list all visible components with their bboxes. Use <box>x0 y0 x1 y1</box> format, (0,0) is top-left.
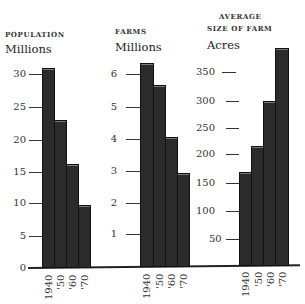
y-tick-label: 30 <box>0 68 26 79</box>
x-label: '70 <box>79 275 90 290</box>
y-tick-label: 200 <box>196 148 224 159</box>
x-label: '60 <box>265 272 276 287</box>
y-tick-label: 2 <box>95 197 117 208</box>
y-tick-mark <box>29 140 42 141</box>
y-tick-label: 100 <box>196 205 224 216</box>
y-tick-mark <box>126 171 140 172</box>
y-tick-label: 250 <box>196 122 224 133</box>
y-tick-label: 300 <box>196 95 224 106</box>
farms-bar-1970 <box>177 173 190 267</box>
size-bar-1970 <box>275 48 289 266</box>
y-tick-label: 15 <box>0 166 26 177</box>
y-tick-mark <box>126 139 140 140</box>
y-tick-mark <box>126 74 140 75</box>
x-label: 1940 <box>43 275 54 300</box>
y-tick-mark <box>29 203 42 204</box>
population-bar-1970 <box>78 205 91 268</box>
y-tick-label: 20 <box>0 134 26 145</box>
size-title-line2: SIZE OF FARM <box>207 24 272 33</box>
y-tick-label: 3 <box>95 165 117 176</box>
x-label: '60 <box>67 275 78 290</box>
y-tick-mark <box>126 107 140 108</box>
y-tick-mark <box>226 128 239 129</box>
x-label: '70 <box>178 274 189 289</box>
x-label: 1940 <box>141 274 152 299</box>
y-tick-label: 350 <box>196 66 224 77</box>
x-label: '60 <box>166 274 177 289</box>
y-tick-mark <box>29 236 42 237</box>
size-unit: Acres <box>207 38 240 52</box>
y-tick-mark <box>126 203 140 204</box>
y-tick-label: 4 <box>95 133 117 144</box>
y-tick-mark <box>226 211 239 212</box>
y-tick-label: 150 <box>196 177 224 188</box>
y-tick-mark <box>126 234 140 235</box>
y-tick-mark <box>226 154 239 155</box>
y-tick-mark <box>226 239 239 240</box>
farms-title: FARMS <box>115 27 147 36</box>
population-title: POPULATION <box>5 30 65 39</box>
y-tick-label: 5 <box>0 230 26 241</box>
x-label: '70 <box>277 272 288 287</box>
x-label: '50 <box>253 272 264 287</box>
y-tick-mark <box>29 74 42 75</box>
y-tick-label: 0 <box>0 262 26 273</box>
x-label: 1940 <box>240 272 251 297</box>
y-tick-label: 6 <box>95 68 117 79</box>
farms-bar-1940 <box>140 63 154 267</box>
y-tick-mark <box>226 101 239 102</box>
y-tick-mark <box>222 72 236 73</box>
x-label: '50 <box>55 275 66 290</box>
y-tick-label: 25 <box>0 101 26 112</box>
y-tick-mark <box>226 183 239 184</box>
population-unit: Millions <box>5 42 52 56</box>
x-label: '50 <box>154 274 165 289</box>
y-tick-label: 1 <box>95 228 117 239</box>
y-tick-mark <box>29 172 42 173</box>
y-tick-label: 5 <box>95 101 117 112</box>
y-tick-label: 10 <box>0 197 26 208</box>
size-title-line1: AVERAGE <box>219 12 261 21</box>
farms-unit: Millions <box>115 40 162 54</box>
y-tick-mark <box>29 107 42 108</box>
